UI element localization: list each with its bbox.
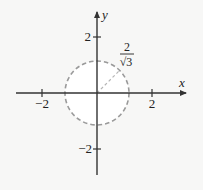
y-axis-label: y: [100, 7, 108, 22]
x-tick-label-neg2: −2: [35, 96, 49, 111]
x-tick-label-pos2: 2: [149, 96, 156, 111]
y-tick-label-neg2: −2: [78, 141, 92, 156]
y-tick-label-pos2: 2: [85, 29, 92, 44]
radius-label-numerator: 2: [124, 40, 130, 54]
radius-label-denominator: √3: [120, 55, 133, 69]
x-axis-label: x: [178, 75, 185, 90]
coordinate-plane: −2 2 2 −2 x y 2 √3: [0, 0, 203, 190]
